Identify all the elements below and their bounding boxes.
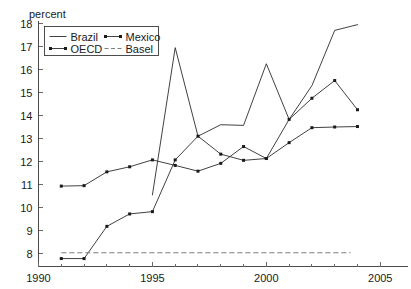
data-point-marker <box>60 257 63 260</box>
y-axis-ticks: 89101112131415161718 <box>20 18 42 260</box>
y-axis-title: percent <box>29 8 66 20</box>
data-point-marker <box>174 164 177 167</box>
y-tick-label: 10 <box>20 202 32 214</box>
series-line-oecd <box>61 127 357 187</box>
y-tick-label: 9 <box>26 225 32 237</box>
data-point-marker <box>83 184 86 187</box>
data-point-marker <box>151 210 154 213</box>
chart-data-markers <box>60 79 359 260</box>
data-point-marker <box>242 145 245 148</box>
y-tick-label: 14 <box>20 110 32 122</box>
data-point-marker <box>242 159 245 162</box>
data-point-marker <box>219 162 222 165</box>
y-tick-label: 12 <box>20 156 32 168</box>
data-point-marker <box>60 185 63 188</box>
data-point-marker <box>219 153 222 156</box>
y-tick-label: 13 <box>20 133 32 145</box>
legend-label: OECD <box>71 43 103 55</box>
data-point-marker <box>196 170 199 173</box>
data-point-marker <box>356 125 359 128</box>
data-point-marker <box>151 158 154 161</box>
x-axis-ticks: 1990199520002005 <box>26 262 392 284</box>
data-point-marker <box>333 126 336 129</box>
data-point-marker <box>196 135 199 138</box>
data-point-marker <box>128 212 131 215</box>
data-point-marker <box>265 157 268 160</box>
chart-container: 89101112131415161718 1990199520002005 pe… <box>0 0 411 289</box>
chart-axes <box>39 21 408 267</box>
data-point-marker <box>128 165 131 168</box>
y-tick-label: 15 <box>20 87 32 99</box>
line-chart: 89101112131415161718 1990199520002005 pe… <box>0 0 411 289</box>
y-tick-label: 8 <box>26 248 32 260</box>
chart-series <box>61 25 357 259</box>
data-point-marker <box>310 97 313 100</box>
y-tick-label: 11 <box>21 179 32 191</box>
series-line-brazil <box>152 25 357 195</box>
x-tick-label: 1995 <box>140 272 164 284</box>
data-point-marker <box>310 126 313 129</box>
data-point-marker <box>105 170 108 173</box>
x-tick-label: 2005 <box>368 272 392 284</box>
data-point-marker <box>83 257 86 260</box>
data-point-marker <box>288 141 291 144</box>
legend-label: Brazil <box>71 31 99 43</box>
data-point-marker <box>288 118 291 121</box>
legend-label: Basel <box>126 43 154 55</box>
chart-legend: BrazilMexicoOECDBasel <box>45 27 161 56</box>
series-line-mexico <box>61 81 357 259</box>
data-point-marker <box>174 158 177 161</box>
y-tick-label: 16 <box>20 64 32 76</box>
y-tick-label: 17 <box>20 41 32 53</box>
x-tick-label: 2000 <box>254 272 278 284</box>
data-point-marker <box>356 108 359 111</box>
legend-label: Mexico <box>126 31 161 43</box>
data-point-marker <box>333 79 336 82</box>
data-point-marker <box>105 225 108 228</box>
x-tick-label: 1990 <box>26 272 50 284</box>
